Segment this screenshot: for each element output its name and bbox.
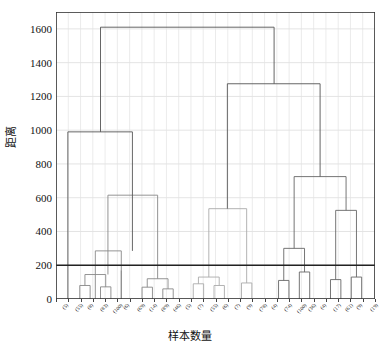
- x-tick-label: (89): [160, 302, 170, 312]
- x-tick-label: (8): [85, 302, 94, 311]
- x-tick-mark: [240, 299, 241, 302]
- x-tick-label: (7): [233, 302, 242, 311]
- x-tick-mark: [289, 299, 290, 302]
- x-tick-label: (14): [147, 302, 157, 312]
- dendrogram-figure: 距离 02004006008001000120014001600 (5)(55)…: [0, 0, 379, 346]
- x-tick-mark: [154, 299, 155, 302]
- x-tick-mark: [166, 299, 167, 302]
- x-tick-label: (55): [209, 302, 219, 312]
- x-tick-label: (78): [258, 302, 268, 312]
- x-tick-mark: [375, 299, 376, 302]
- x-axis-tick-labels: (5)(55)(8)(83)(100)(6)(69)(14)(89)(46)(5…: [0, 0, 379, 346]
- x-tick-mark: [105, 299, 106, 302]
- x-tick-mark: [216, 299, 217, 302]
- x-tick-mark: [338, 299, 339, 302]
- x-tick-label: (7): [196, 302, 205, 311]
- x-tick-mark: [277, 299, 278, 302]
- x-tick-mark: [130, 299, 131, 302]
- x-tick-mark: [363, 299, 364, 302]
- x-tick-label: (4): [269, 302, 278, 311]
- x-tick-mark: [68, 299, 69, 302]
- x-tick-label: (6): [220, 302, 229, 311]
- x-tick-label: (69): [135, 302, 145, 312]
- x-tick-label: (5): [183, 302, 192, 311]
- x-tick-mark: [191, 299, 192, 302]
- x-tick-label: (17): [331, 302, 341, 312]
- x-tick-label: (9): [355, 302, 364, 311]
- x-tick-mark: [203, 299, 204, 302]
- x-tick-label: (4): [318, 302, 327, 311]
- x-axis-label: 样本数量: [0, 327, 379, 343]
- x-tick-label: (46): [172, 302, 182, 312]
- x-tick-label: (100): [111, 302, 123, 314]
- x-tick-mark: [301, 299, 302, 302]
- x-tick-mark: [314, 299, 315, 302]
- x-tick-mark: [117, 299, 118, 302]
- x-tick-mark: [179, 299, 180, 302]
- x-tick-label: (19): [368, 302, 378, 312]
- x-tick-mark: [326, 299, 327, 302]
- x-tick-label: (36): [307, 302, 317, 312]
- x-tick-mark: [93, 299, 94, 302]
- x-tick-mark: [56, 299, 57, 302]
- x-tick-mark: [81, 299, 82, 302]
- x-tick-mark: [252, 299, 253, 302]
- x-tick-mark: [142, 299, 143, 302]
- x-tick-label: (5): [61, 302, 70, 311]
- x-tick-label: (6): [122, 302, 131, 311]
- x-tick-mark: [228, 299, 229, 302]
- x-tick-mark: [265, 299, 266, 302]
- x-tick-label: (55): [74, 302, 84, 312]
- x-tick-label: (9): [245, 302, 254, 311]
- x-tick-label: (61): [344, 302, 354, 312]
- x-tick-label: (74): [282, 302, 292, 312]
- x-tick-label: (83): [98, 302, 108, 312]
- x-tick-mark: [350, 299, 351, 302]
